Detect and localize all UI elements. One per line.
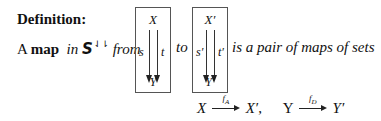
formula-map2-codomain: Y′: [333, 100, 345, 116]
down-arrow-icon: [149, 30, 150, 77]
definition-sentence-start: A map in S⇃⇂ from: [17, 39, 140, 58]
article: A: [17, 41, 27, 57]
target-diagram: X′ s′ t′ Y′: [192, 7, 228, 93]
formula-map1-domain: X: [197, 100, 206, 116]
target-top-node: X′: [193, 12, 227, 28]
right-arrow-icon: fA: [212, 99, 240, 113]
source-bottom-node: Y: [136, 75, 170, 90]
down-arrow-icon: [157, 30, 158, 77]
target-bottom-node: Y′: [193, 75, 227, 90]
category-symbol: S: [82, 40, 93, 58]
source-diagram: X s t Y: [135, 7, 171, 93]
formula-map1-function: fA: [212, 93, 240, 106]
target-left-arrow-label: s′: [196, 45, 203, 60]
formula-map2-domain: Y: [283, 100, 293, 116]
formula-map2-function: fD: [299, 93, 327, 106]
target-right-arrow-label: t′: [218, 45, 224, 60]
in-word: in: [67, 41, 79, 57]
source-left-arrow-label: s: [139, 45, 144, 60]
to-word: to: [176, 39, 188, 56]
formula-map1-codomain: X′: [246, 100, 258, 116]
double-down-arrows-superscript: ⇃⇂: [94, 39, 109, 49]
source-top-node: X: [136, 12, 170, 28]
formula-separator: ,: [258, 100, 262, 116]
definition-sentence-end: is a pair of maps of sets: [232, 39, 375, 56]
definition-heading: Definition:: [17, 11, 86, 28]
right-arrow-icon: fD: [299, 99, 327, 113]
source-right-arrow-label: t: [161, 45, 164, 60]
down-arrow-icon: [214, 30, 215, 77]
down-arrow-icon: [206, 30, 207, 77]
defined-term: map: [31, 41, 59, 57]
map-formula: X fA X′, Y fD Y′: [197, 99, 344, 117]
